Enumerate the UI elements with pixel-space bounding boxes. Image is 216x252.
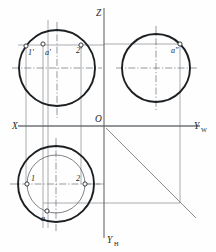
- label-axis-yh: Y: [107, 235, 114, 245]
- label-axis-x: X: [11, 121, 19, 131]
- point-marker-1: [25, 182, 29, 186]
- label-point-1prime: 1': [28, 48, 34, 57]
- label-point-2: 2: [76, 174, 80, 183]
- label-point-2prime: 2': [76, 46, 82, 55]
- axes-group: [18, 8, 200, 238]
- label-point-aprime: a': [45, 48, 51, 57]
- label-axis-origin: O: [95, 114, 102, 124]
- label-axis-yh-subscript: H: [114, 240, 119, 247]
- engineering-drawing-canvas: 1' a' 2' a″ 1 2 a Z X O Y W Y H: [0, 0, 216, 252]
- label-axis-z: Z: [96, 8, 102, 18]
- label-axis-yw-subscript: W: [201, 126, 207, 133]
- label-point-adoubleprime: a″: [171, 46, 179, 55]
- label-point-1: 1: [31, 174, 35, 183]
- point-marker-2: [83, 182, 87, 186]
- point-marker-a: [45, 209, 49, 213]
- point-marker-aprime: [41, 42, 45, 46]
- projection-drawing-svg: 1' a' 2' a″ 1 2 a Z X O Y W Y H: [0, 0, 216, 252]
- label-point-a: a: [41, 214, 45, 223]
- mitre-line-45deg: [106, 128, 196, 218]
- point-marker-adoubleprime: [178, 42, 182, 46]
